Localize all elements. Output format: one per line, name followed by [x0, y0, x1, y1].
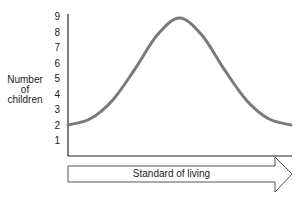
x-axis-label: Standard of living — [68, 166, 275, 181]
y-axis-label: Number of children — [0, 75, 50, 105]
y-tick-label: 3 — [54, 104, 60, 115]
y-tick-label: 8 — [54, 27, 60, 38]
y-tick-label: 1 — [54, 135, 60, 146]
y-tick-label: 2 — [54, 120, 60, 131]
y-tick-label: 4 — [54, 89, 60, 100]
y-tick-label: 5 — [54, 73, 60, 84]
y-tick-label: 9 — [54, 11, 60, 22]
y-tick-label: 7 — [54, 42, 60, 53]
y-tick-labels: 123456789 — [54, 11, 60, 146]
y-tick-label: 6 — [54, 58, 60, 69]
y-axis-label-line: children — [0, 95, 50, 105]
data-curve — [68, 18, 291, 125]
